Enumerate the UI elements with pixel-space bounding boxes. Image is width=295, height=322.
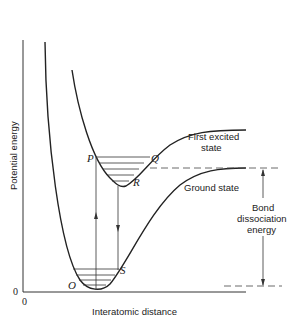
bond-label-line2: dissociation xyxy=(237,213,287,224)
y-axis-label: Potential energy xyxy=(8,121,19,190)
point-R-label: R xyxy=(132,176,140,188)
bond-energy-arrowhead-down-icon xyxy=(261,279,265,286)
emission-arrowhead-icon xyxy=(116,225,120,232)
point-Q-label: Q xyxy=(151,152,159,164)
absorption-arrowhead-icon xyxy=(94,212,98,219)
excited-vibrational-levels xyxy=(96,157,150,181)
y-origin-label: 0 xyxy=(13,286,18,297)
point-P-label: P xyxy=(86,152,94,164)
point-O-label: O xyxy=(68,279,76,291)
ground-state-label: Ground state xyxy=(184,182,239,193)
ground-state-curve xyxy=(45,42,246,289)
bond-label-line3: energy xyxy=(247,224,276,235)
excited-state-label-line1: First excited xyxy=(188,131,239,142)
point-S-label: S xyxy=(120,264,126,276)
excited-state-label-line2: state xyxy=(201,142,222,153)
bond-energy-arrowhead-up-icon xyxy=(261,169,265,176)
bond-label-line1: Bond xyxy=(252,202,274,213)
potential-energy-diagram: Potential energy Interatomic distance 0 … xyxy=(0,0,295,322)
x-origin-label: 0 xyxy=(22,296,27,307)
x-axis-label: Interatomic distance xyxy=(92,306,177,317)
